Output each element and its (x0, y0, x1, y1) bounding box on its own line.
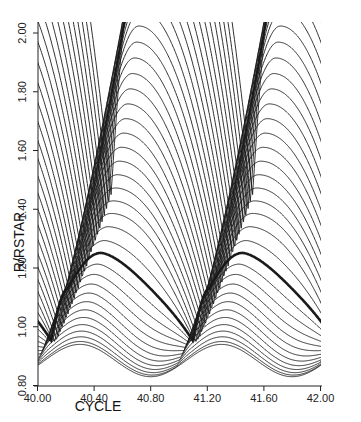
shell-curve (35, 0, 324, 234)
shell-curve (35, 325, 324, 366)
x-tick-label: 40.80 (137, 392, 165, 404)
y-tick-label: 1.00 (16, 316, 28, 337)
shell-curve (35, 302, 324, 351)
x-tick-label: 40.00 (24, 392, 52, 404)
shell-trajectories (35, 0, 324, 377)
shell-curve (35, 310, 324, 356)
shell-radius-chart: 0.801.001.201.401.601.802.00 40.0040.404… (0, 0, 361, 422)
x-axis-title: CYCLE (75, 398, 122, 414)
shell-curve (35, 0, 324, 209)
shell-curve (35, 0, 324, 259)
shell-curve (35, 0, 324, 215)
y-ticks: 0.801.001.201.401.601.802.00 (16, 22, 38, 396)
x-ticks: 40.0040.4040.8041.2041.6042.00 (24, 386, 335, 404)
x-tick-label: 41.20 (194, 392, 222, 404)
y-tick-label: 2.00 (16, 22, 28, 43)
x-tick-label: 41.60 (250, 392, 278, 404)
y-tick-label: 1.80 (16, 81, 28, 102)
x-tick-label: 42.00 (307, 392, 335, 404)
shell-curve (35, 0, 324, 222)
y-axis-title: R/RSTAR (11, 212, 27, 272)
y-tick-label: 1.60 (16, 140, 28, 161)
